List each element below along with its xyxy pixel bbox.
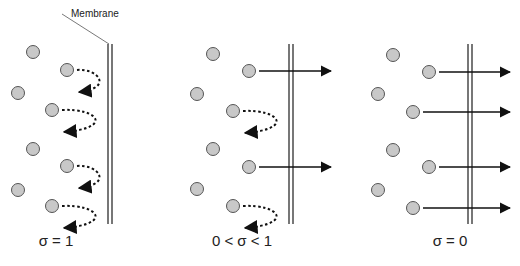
membrane bbox=[108, 44, 112, 224]
solute-particle bbox=[423, 161, 436, 174]
solute-particle bbox=[27, 143, 40, 156]
solute-particle bbox=[387, 144, 400, 157]
panel-2 bbox=[191, 44, 332, 228]
solute-particle bbox=[46, 200, 59, 213]
reflected-arrow bbox=[243, 111, 277, 133]
solute-particle bbox=[423, 66, 436, 79]
reflected-arrow bbox=[243, 206, 277, 228]
solute-particle bbox=[407, 202, 420, 215]
solute-particle bbox=[407, 106, 420, 119]
solute-particle bbox=[207, 143, 220, 156]
panel-caption: σ = 0 bbox=[433, 232, 468, 249]
membrane bbox=[468, 44, 472, 224]
solute-particle bbox=[61, 64, 74, 77]
reflected-arrow bbox=[62, 206, 96, 228]
reflection-coefficient-diagram bbox=[0, 0, 520, 266]
reflected-arrow bbox=[77, 70, 100, 92]
solute-particle bbox=[227, 105, 240, 118]
panel-caption: 0 < σ < 1 bbox=[212, 232, 272, 249]
solute-particle bbox=[46, 104, 59, 117]
panel-caption: σ = 1 bbox=[39, 232, 74, 249]
solute-particle bbox=[243, 161, 256, 174]
reflected-arrow bbox=[62, 110, 96, 132]
solute-particle bbox=[227, 200, 240, 213]
solute-particle bbox=[387, 49, 400, 62]
membrane-label: Membrane bbox=[71, 8, 119, 19]
solute-particle bbox=[191, 88, 204, 101]
solute-particle bbox=[27, 46, 40, 59]
solute-particle bbox=[243, 65, 256, 78]
solute-particle bbox=[61, 160, 74, 173]
solute-particle bbox=[12, 87, 25, 100]
panel-3 bbox=[372, 44, 511, 224]
solute-particle bbox=[191, 183, 204, 196]
solute-particle bbox=[372, 184, 385, 197]
solute-particle bbox=[372, 88, 385, 101]
panel-1 bbox=[12, 44, 113, 228]
reflected-arrow bbox=[77, 166, 100, 188]
solute-particle bbox=[12, 184, 25, 197]
solute-particle bbox=[207, 48, 220, 61]
